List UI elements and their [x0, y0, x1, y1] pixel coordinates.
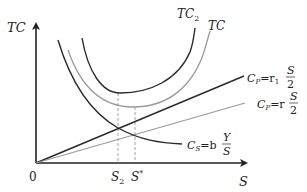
cs-curve — [58, 40, 182, 144]
sstar-tick-label: S* — [131, 169, 143, 184]
origin-label: 0 — [29, 170, 37, 184]
cs-label: CS=b Y S — [187, 131, 232, 158]
svg-text:2: 2 — [290, 104, 297, 117]
svg-text:S: S — [287, 64, 295, 77]
svg-text:S: S — [290, 90, 298, 103]
y-axis-label: TC — [7, 20, 26, 35]
cp-r-line — [36, 103, 245, 163]
svg-text:S: S — [223, 145, 231, 158]
tc-curve — [68, 31, 210, 107]
svg-text:CS=b: CS=b — [187, 139, 216, 153]
svg-text:CP=r: CP=r — [257, 98, 285, 112]
tc2-label: TC2 — [177, 7, 199, 23]
cost-diagram: TC S 0 TC2 TC CP=r1 S 2 CP=r S 2 CS=b Y … — [0, 0, 307, 192]
s2-tick-label: S2 — [111, 170, 124, 186]
cp-r-label: CP=r S 2 — [257, 90, 298, 117]
cp-r1-label: CP=r1 S 2 — [247, 64, 295, 91]
tc2-curve — [82, 28, 195, 93]
svg-text:CP=r1: CP=r1 — [247, 72, 279, 86]
tc-label: TC — [208, 19, 225, 33]
svg-text:Y: Y — [223, 131, 232, 144]
x-axis-label: S — [239, 174, 248, 189]
